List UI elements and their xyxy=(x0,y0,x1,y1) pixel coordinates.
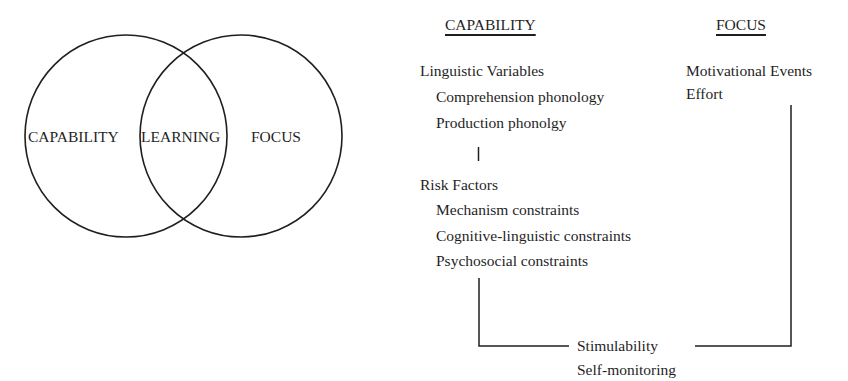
group-title-risk-factors: Risk Factors xyxy=(420,176,498,194)
list-item-cognitive-linguistic-constraints: Cognitive-linguistic constraints xyxy=(436,227,631,245)
list-item-production-phonology: Production phonolgy xyxy=(436,114,566,132)
list-item-mechanism-constraints: Mechanism constraints xyxy=(436,201,579,219)
list-item-self-monitoring: Self-monitoring xyxy=(577,361,676,379)
venn-label-focus: FOCUS xyxy=(251,128,301,146)
capability-header: CAPABILITY xyxy=(445,16,536,34)
list-item-comprehension-phonology: Comprehension phonology xyxy=(436,88,604,106)
venn-label-capability: CAPABILITY xyxy=(28,128,119,146)
focus-bracket-line xyxy=(695,105,791,346)
capability-bracket-line xyxy=(479,278,569,346)
diagram-canvas: CAPABILITY LEARNING FOCUS CAPABILITY FOC… xyxy=(0,0,848,381)
list-item-effort: Effort xyxy=(686,85,723,103)
group-title-linguistic-variables: Linguistic Variables xyxy=(420,62,544,80)
venn-label-learning: LEARNING xyxy=(141,128,220,146)
list-item-stimulability: Stimulability xyxy=(577,337,658,355)
focus-header: FOCUS xyxy=(716,16,766,34)
list-item-motivational-events: Motivational Events xyxy=(686,62,812,80)
list-item-psychosocial-constraints: Psychosocial constraints xyxy=(436,252,588,270)
